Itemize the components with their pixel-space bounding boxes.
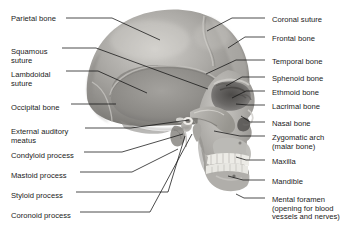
mandibular-fossa bbox=[176, 118, 184, 123]
external-auditory-meatus-hole bbox=[185, 119, 190, 123]
mental-foramen-shape bbox=[232, 174, 235, 177]
label-occipital-bone: Occipital bone bbox=[11, 104, 59, 113]
label-ethmoid-bone: Ethmoid bone bbox=[272, 89, 319, 98]
label-mandible: Mandible bbox=[272, 178, 303, 187]
label-squamous-suture: Squamous suture bbox=[11, 48, 47, 65]
label-lacrimal-bone: Lacrimal bone bbox=[272, 103, 320, 112]
vault-highlight-2 bbox=[194, 22, 230, 50]
label-coronal-suture: Coronal suture bbox=[272, 16, 322, 25]
label-sphenoid-bone: Sphenoid bone bbox=[272, 75, 323, 84]
label-coronoid-process: Coronoid process bbox=[11, 212, 71, 221]
label-external-auditory-meatus: External auditory meatus bbox=[11, 128, 68, 145]
label-frontal-bone: Frontal bone bbox=[272, 35, 315, 44]
label-temporal-bone: Temporal bone bbox=[272, 58, 323, 67]
label-nasal-bone: Nasal bone bbox=[272, 120, 311, 129]
label-mental-foramen: Mental foramen (opening for blood vessel… bbox=[272, 196, 340, 222]
label-condyloid-process: Condyloid process bbox=[11, 152, 74, 161]
vault-highlight bbox=[110, 20, 190, 60]
skull-anatomy-figure: Parietal boneSquamous sutureLambdoidal s… bbox=[0, 0, 351, 232]
nasal-aperture-shape bbox=[237, 117, 250, 131]
label-mastoid-process: Mastoid process bbox=[11, 172, 67, 181]
label-parietal-bone: Parietal bone bbox=[11, 15, 56, 24]
label-maxilla: Maxilla bbox=[272, 158, 296, 167]
label-lambdoidal-suture: Lambdoidal suture bbox=[11, 71, 50, 88]
label-styloid-process: Styloid process bbox=[11, 192, 63, 201]
infraorbital-foramen bbox=[239, 142, 242, 145]
label-zygomatic-arch: Zygomatic arch (malar bone) bbox=[272, 134, 324, 151]
